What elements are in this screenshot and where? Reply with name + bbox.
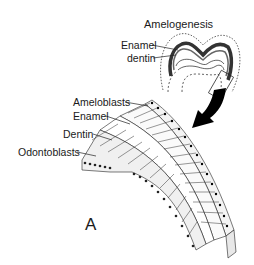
inset-label-dentin: dentin [127,53,156,64]
label-ameloblasts: Ameloblasts [73,97,130,108]
panel-label: A [85,215,96,235]
inset-title: Amelogenesis [144,19,213,30]
label-enamel: Enamel [73,111,109,122]
tooth-crown-illustration [161,34,240,100]
label-dentin: Dentin [63,129,93,140]
curved-arrow-icon [192,88,226,128]
label-odontoblasts: Odontoblasts [18,147,80,158]
tissue-layers-illustration [82,100,236,258]
inset-label-enamel: Enamel [121,40,157,51]
